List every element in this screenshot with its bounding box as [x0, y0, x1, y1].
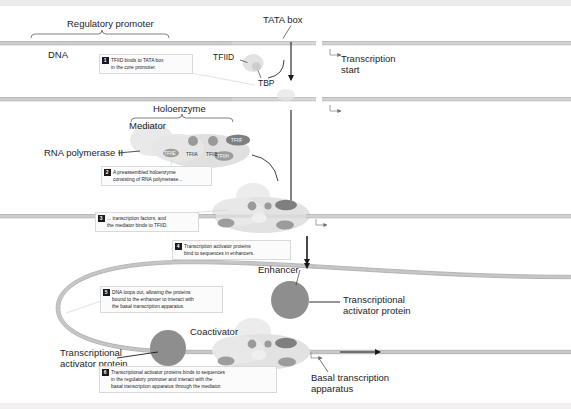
label-factor-tfiih: TFIIH — [217, 154, 229, 159]
label-factor-tfiie: TFIIE — [164, 151, 176, 156]
activator-protein-enhancer — [271, 281, 309, 319]
panel-1-dna — [0, 26, 571, 86]
label-activator-protein-right: Transcriptional activator protein — [343, 294, 411, 316]
step-text: A preassembled holoenzyme consisting of … — [113, 169, 182, 183]
label-enhancer: Enhancer — [258, 264, 299, 275]
label-factor-tfiia: TFIIA — [186, 152, 198, 157]
step-text: Transcriptional activator proteins binds… — [111, 369, 225, 390]
step-callout-6: 6 Transcriptional activator proteins bin… — [99, 366, 277, 393]
step-number: 6 — [102, 369, 109, 376]
step-callout-5: 5 DNA loops out, allowing the proteins b… — [100, 286, 223, 313]
step-callout-2: 2 A preassembled holoenzyme consisting o… — [101, 166, 212, 186]
activator-protein-promoter — [150, 330, 186, 366]
label-factor-tfiif: TFIIF — [231, 138, 242, 143]
step-text: TFIID binds to TATA box in the core prom… — [111, 57, 163, 71]
label-mediator: Mediator — [129, 120, 166, 131]
label-rna-polymerase-ii: RNA polymerase II — [44, 147, 123, 158]
label-tata-box: TATA box — [263, 14, 303, 25]
step-callout-3: 3 ... transcription factors, and the med… — [95, 212, 199, 232]
label-factor-tfiib: TFIIB — [206, 152, 218, 157]
label-tbp: TBP — [258, 78, 275, 88]
label-transcription-start: Transcription start — [341, 53, 396, 75]
figure-canvas: Regulatory promoter TATA box DNA TFIID T… — [0, 0, 571, 409]
label-coactivator: Coactivator — [190, 326, 238, 337]
step-number: 2 — [104, 169, 111, 176]
step-number: 5 — [103, 289, 110, 296]
step-text: DNA loops out, allowing the proteins bou… — [112, 289, 194, 310]
label-dna: DNA — [48, 49, 68, 60]
panel-2-dna — [0, 89, 571, 111]
step-number: 4 — [175, 243, 182, 250]
step-text: ... transcription factors, and the media… — [107, 215, 168, 229]
step-callout-4: 4 Transcription activator proteins bind … — [172, 240, 291, 260]
step-number: 1 — [102, 57, 109, 64]
factor-TFIIA — [188, 136, 198, 146]
label-tfiid: TFIID — [213, 52, 234, 62]
label-holoenzyme: Holoenzyme — [153, 103, 206, 114]
step-text: Transcription activator proteins bind to… — [184, 243, 254, 257]
factor-TFIIB — [208, 136, 218, 146]
step-callout-1: 1 TFIID binds to TATA box in the core pr… — [99, 54, 193, 74]
step-number: 3 — [98, 215, 105, 222]
label-basal-transcription-apparatus: Basal transcription apparatus — [311, 372, 389, 394]
label-regulatory-promoter: Regulatory promoter — [67, 18, 154, 29]
